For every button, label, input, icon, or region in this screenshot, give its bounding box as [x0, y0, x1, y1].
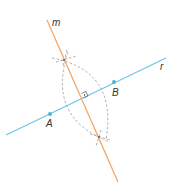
line-m: [47, 20, 118, 182]
point-b: [112, 80, 116, 84]
point-a: [48, 112, 52, 116]
label-m: m: [52, 17, 60, 28]
label-a: A: [45, 118, 53, 129]
label-b: B: [112, 87, 119, 98]
arc-tick-bottom: [90, 134, 110, 140]
label-r: r: [160, 61, 164, 72]
perpendicular-bisector-diagram: m r A B: [0, 0, 181, 196]
intersection-bottom: [98, 136, 100, 138]
intersection-top: [63, 59, 65, 61]
